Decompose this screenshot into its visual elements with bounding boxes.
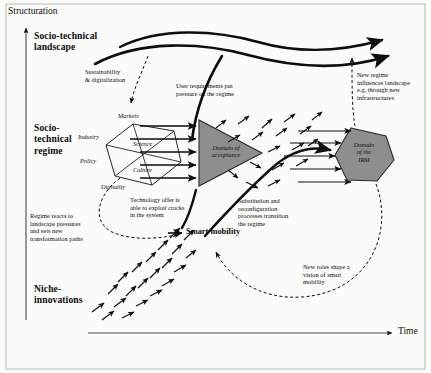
regime-label-culture: Culture <box>133 166 152 173</box>
regime-label-markets: Markets <box>118 112 139 119</box>
figure-border <box>6 4 425 369</box>
regime-label-digitality: Digitality <box>101 183 125 190</box>
annotation-sustainability: Sustainability & digitalization <box>85 68 125 83</box>
annotation-technology-offer: Technology offer is able to exploit crac… <box>130 196 184 219</box>
regime-label-industry: Industry <box>78 133 99 140</box>
domain-of-the-irm-label: Domain of the IRM <box>341 141 387 163</box>
arrow-sustainability <box>131 56 148 103</box>
annotation-new-roles: New roles shape a vision of smart mobili… <box>303 263 350 286</box>
level-label-landscape: Socio-technical landscape <box>34 30 97 53</box>
regime-label-policy: Policy <box>80 157 96 164</box>
domain-of-acceptance-label: Domain of acceptance <box>200 144 252 159</box>
regime-hexagon <box>106 124 181 185</box>
arrow-new-regime-influences <box>352 58 355 126</box>
niche-innovation-arrows <box>92 228 196 320</box>
annotation-new-regime-influences: New regime influences landscape e.g. thr… <box>357 71 410 101</box>
regime-label-science: Science <box>133 140 152 147</box>
level-label-regime: Socio- technical regime <box>34 122 72 156</box>
annotation-regime-reacts: Regime reacts to landscape pressures and… <box>30 212 83 242</box>
smart-mobility-label: Smart mobility <box>186 227 240 237</box>
level-label-niche: Niche- innovations <box>34 283 83 306</box>
y-axis-label: Structuration <box>8 6 58 17</box>
diagram-vector-layer <box>0 0 431 373</box>
figure-canvas: Structuration Time Socio-technical lands… <box>0 0 431 373</box>
x-axis-label: Time <box>398 326 418 337</box>
annotation-user-requirements: User requirements put pressure on the re… <box>176 82 234 97</box>
annotation-substitution: Substitution and reconfiguration process… <box>238 197 288 227</box>
